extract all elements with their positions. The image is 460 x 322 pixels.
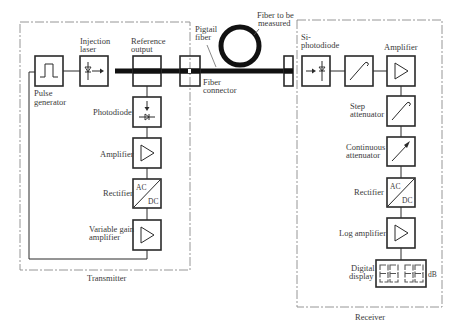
amplifier-block xyxy=(133,138,161,168)
step-attenuator-label-2: attenuator xyxy=(350,109,384,119)
photodiode-block xyxy=(133,97,161,127)
reference-output-label-2: output xyxy=(131,44,153,54)
svg-text:DC: DC xyxy=(148,197,158,206)
receiver-rectifier-label: Rectifier xyxy=(354,187,384,197)
pigtail-label-2: fiber xyxy=(195,32,211,42)
transmitter-label: Transmitter xyxy=(87,273,127,283)
continuous-attenuator-block xyxy=(387,137,415,166)
attenuation-measurement-diagram: Transmitter Receiver Pulse generator Inj… xyxy=(0,0,460,322)
filter-block xyxy=(345,56,373,86)
receiver-label: Receiver xyxy=(355,312,385,322)
si-photodiode-block xyxy=(302,56,330,86)
amplifier-label: Amplifier xyxy=(100,149,134,159)
step-attenuator-block xyxy=(387,96,415,126)
fiber-under-test-label-2: measured xyxy=(258,18,291,28)
fiber-coil xyxy=(221,27,259,65)
pigtail-leader-line xyxy=(207,45,216,67)
si-photodiode-label-2: photodiode xyxy=(301,40,339,50)
fiber-connector xyxy=(180,56,200,86)
log-amplifier-block xyxy=(387,218,415,248)
pulse-generator-block xyxy=(35,56,63,86)
injection-laser-label-2: laser xyxy=(80,44,96,54)
receiver-amplifier-label: Amplifier xyxy=(384,42,418,52)
digital-display-label-2: display xyxy=(349,271,374,281)
continuous-attenuator-label-2: attenuator xyxy=(346,150,380,160)
rectifier-block: AC DC xyxy=(133,179,161,208)
svg-text:DC: DC xyxy=(402,196,412,205)
fiber-connector-label-2: connector xyxy=(203,85,237,95)
digital-display-block xyxy=(376,260,426,287)
vga-label-2: amplifier xyxy=(89,232,120,242)
pulse-generator-label-2: generator xyxy=(34,97,66,107)
log-amplifier-label: Log amplifier xyxy=(339,228,386,238)
display-unit-label: dB xyxy=(428,270,437,279)
photodiode-label: Photodiode xyxy=(93,107,132,117)
receiver-amplifier-block xyxy=(387,56,415,86)
variable-gain-amplifier-block xyxy=(133,220,161,250)
injection-laser-block xyxy=(80,56,108,86)
svg-text:AC: AC xyxy=(136,183,146,192)
rectifier-label: Rectifier xyxy=(103,188,133,198)
svg-text:AC: AC xyxy=(390,182,400,191)
receiver-rectifier-block: AC DC xyxy=(387,178,415,207)
